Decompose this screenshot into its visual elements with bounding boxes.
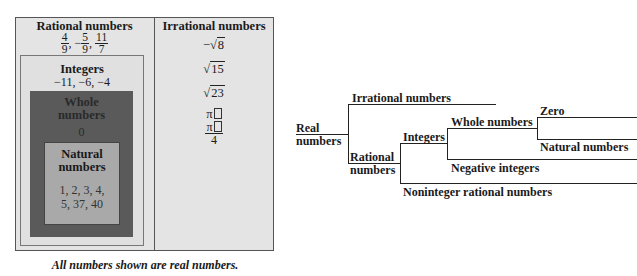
tree-line-noninteger [400, 183, 637, 184]
irrational-sqrt23: √23 [154, 86, 274, 101]
rational-examples: 49, −59, 117 [15, 32, 154, 55]
tree-label-negative: Negative integers [451, 162, 539, 175]
tree-label-whole: Whole numbers [451, 116, 533, 129]
tree-line-rational-branch [400, 143, 401, 184]
tree-label-real: Realnumbers [296, 122, 341, 148]
tree-line-root-branch [348, 104, 349, 164]
tree-label-integers: Integers [403, 131, 445, 144]
tree-label-irrational: Irrational numbers [352, 92, 451, 105]
fraction-neg-5-9: 59 [81, 32, 89, 55]
irrational-pi: π [154, 107, 274, 122]
missing-glyph-icon [214, 108, 222, 119]
integers-examples: −11, −6, −4 [20, 75, 144, 90]
whole-numbers-title: Wholenumbers [30, 96, 133, 122]
fraction-11-7: 117 [95, 32, 108, 55]
irrational-neg-sqrt8: −√8 [154, 38, 274, 53]
tree-line-integers-branch [447, 128, 448, 160]
fraction-4-9: 49 [61, 32, 69, 55]
tree-label-noninteger: Noninteger rational numbers [403, 186, 552, 199]
irrational-numbers-title: Irrational numbers [154, 19, 274, 34]
missing-glyph-icon [214, 121, 222, 132]
irrational-pi-over-4: π4 [154, 121, 274, 146]
tree-label-zero: Zero [540, 105, 564, 118]
natural-numbers-examples: 1, 2, 3, 4,5, 37, 40 [44, 183, 120, 211]
whole-numbers-examples: 0 [30, 125, 133, 140]
tree-line-whole-branch [537, 117, 538, 140]
tree-line-negative [447, 159, 637, 160]
caption: All numbers shown are real numbers. [0, 258, 290, 273]
irrational-sqrt15: √15 [154, 62, 274, 77]
natural-numbers-title: Naturalnumbers [44, 148, 120, 174]
tree-label-natural: Natural numbers [540, 141, 628, 154]
tree-label-rational: Rationalnumbers [350, 151, 395, 177]
